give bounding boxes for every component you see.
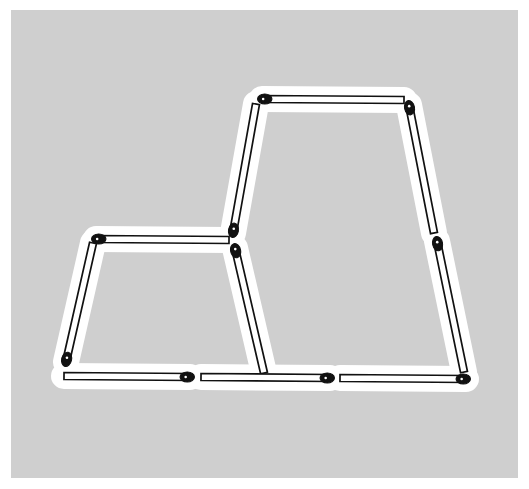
match-head-highlight [324, 377, 327, 380]
match-body [96, 236, 229, 244]
match-head [320, 373, 335, 383]
match-head [257, 94, 272, 104]
match-head [180, 372, 195, 382]
match-body [340, 375, 466, 383]
match-head-highlight [184, 376, 187, 379]
match-body [201, 374, 330, 382]
match-body [64, 373, 190, 381]
match-head-highlight [234, 248, 237, 251]
match-head-highlight [66, 356, 69, 359]
matchstick-figure [0, 0, 529, 489]
match-head-highlight [408, 105, 411, 108]
match-head-highlight [96, 238, 99, 241]
matchstick-puzzle-image [0, 0, 529, 489]
match-head [456, 374, 471, 384]
match-head-highlight [460, 378, 463, 381]
match-head-highlight [232, 227, 235, 230]
match-head-highlight [262, 98, 265, 101]
match-head-highlight [436, 241, 439, 244]
match-body [262, 96, 404, 104]
